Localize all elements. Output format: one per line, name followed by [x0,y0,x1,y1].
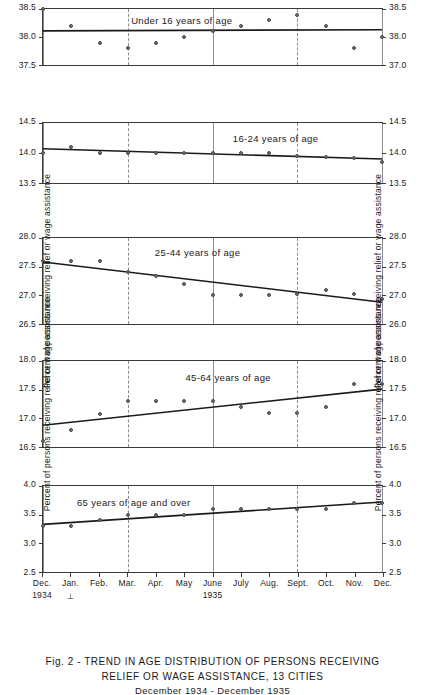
data-point [239,405,243,409]
caption-line-1: Fig. 2 - TREND IN AGE DISTRIBUTION OF PE… [0,655,425,670]
y-tick-label-right: 38.5 [389,3,423,12]
x-tick-mark [156,573,157,577]
y-tick-label-right: 37.0 [389,61,423,70]
y-tick-label-left: 3.5 [2,509,36,518]
x-tick-mark [213,573,214,577]
data-point [324,155,328,159]
x-tick-label: Feb. [90,578,108,588]
y-axis-title-left-wrap: Percent of persons receiving relief or w… [2,360,14,448]
x-tick-mark [355,573,356,577]
y-tick-label-right: 13.5 [389,179,423,188]
x-tick-mark [383,573,384,577]
y-axis-title-right-wrap: Percent of persons receiving relief or w… [411,360,423,448]
plot-area: 25-44 years of age [42,237,383,325]
plot-area: 16-24 years of age [42,122,383,184]
data-point [211,29,215,33]
data-point [154,513,158,517]
x-tick-mark [241,573,242,577]
y-tick-label-left: 14.5 [2,117,36,126]
data-point [352,292,356,296]
data-point [324,288,328,292]
chart-panel-4: 18.018.017.517.517.017.016.516.545-64 ye… [0,360,425,448]
y-tick-label-left: 38.0 [2,32,36,41]
data-point [380,501,384,505]
figure-root: 38.538.538.038.037.537.0Under 16 years o… [0,0,425,695]
data-point [211,507,215,511]
x-tick-mark [70,573,71,577]
data-point [154,151,158,155]
y-tick-label-right: 14.0 [389,148,423,157]
plot-area: Under 16 years of age [42,8,383,66]
data-point [380,35,384,39]
data-point [352,156,356,160]
x-tick-label: July [233,578,249,588]
y-tick-label-right: 3.0 [389,539,423,548]
y-tick-label-left: 37.5 [2,61,36,70]
y-tick-label-left: 4.0 [2,480,36,489]
x-tick-mark [99,573,100,577]
y-axis-title-right: Percent of persons receiving relief or w… [373,297,383,511]
data-point [126,513,130,517]
data-point [352,382,356,386]
data-point [41,7,45,11]
y-tick-mark [382,153,386,154]
data-point [98,518,102,522]
y-axis-title-left: Percent of persons receiving relief or w… [42,297,52,511]
x-axis-year-mid: 1935 [203,590,223,600]
chart-panel-3: 28.028.027.527.527.027.026.526.025-44 ye… [0,237,425,325]
data-point [380,160,384,164]
data-point [211,293,215,297]
caption-line-2: RELIEF OR WAGE ASSISTANCE, 13 CITIES [0,670,425,685]
y-tick-label-right: 3.5 [389,509,423,518]
data-point [98,41,102,45]
y-tick-mark [382,65,386,66]
y-tick-label-right: 4.0 [389,480,423,489]
data-point [352,501,356,505]
y-axis-title-left-wrap: Percent of persons receiving relief or w… [2,237,14,325]
data-point [352,46,356,50]
chart-panel-2: 14.514.514.014.013.513.516-24 years of a… [0,122,425,184]
y-axis-title-right-wrap: Percent of persons receiving relief or w… [411,237,423,325]
chart-panel-1: 38.538.538.038.037.537.0Under 16 years o… [0,8,425,66]
data-point [126,46,130,50]
grid-rule [382,486,383,572]
data-point [98,259,102,263]
data-point [211,399,215,403]
data-point [239,151,243,155]
y-tick-label-right: 2.5 [389,568,423,577]
y-tick-label-left: 3.0 [2,539,36,548]
data-point [324,405,328,409]
x-tick-label: Oct. [318,578,334,588]
data-point [267,151,271,155]
x-tick-label: Apr. [148,578,164,588]
series-title: 45-64 years of age [185,372,271,383]
data-point [98,412,102,416]
x-tick-label: Jan. [62,578,79,588]
data-point [295,13,299,17]
data-point [324,507,328,511]
data-point [211,151,215,155]
figure-caption: Fig. 2 - TREND IN AGE DISTRIBUTION OF PE… [0,655,425,695]
x-tick-mark [127,573,128,577]
x-tick-label: Mar. [119,578,136,588]
y-tick-label-left: 13.5 [2,179,36,188]
series-title: 16-24 years of age [233,133,319,144]
x-axis-year-divider-mark: ⊥ [67,592,74,601]
y-tick-mark [382,543,386,544]
x-tick-mark [42,573,43,577]
series-title: 65 years of age and over [77,497,191,508]
data-point [324,24,328,28]
x-tick-label: May [176,578,193,588]
data-point [267,507,271,511]
data-point [239,24,243,28]
data-point [154,41,158,45]
x-tick-label: Aug. [260,578,278,588]
x-tick-label: Nov. [346,578,364,588]
plot-area: 65 years of age and over [42,485,383,573]
y-tick-label-right: 14.5 [389,117,423,126]
x-tick-label: June [203,578,222,588]
data-point [239,507,243,511]
x-tick-mark [269,573,270,577]
x-tick-label: Sept. [287,578,308,588]
y-tick-mark [382,515,386,516]
